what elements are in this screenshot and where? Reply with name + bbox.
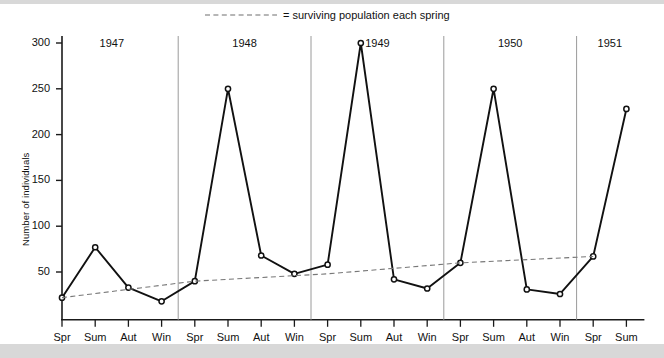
year-label: 1951 [575,37,645,49]
data-point-marker [391,277,396,282]
data-point-marker [524,287,529,292]
data-point-marker [325,262,330,267]
data-point-marker [491,86,496,91]
y-tick-label: 50 [16,265,50,277]
data-point-marker [259,253,264,258]
series-line-population [62,43,626,301]
data-point-marker [159,299,164,304]
y-tick-label: 100 [16,219,50,231]
legend-dashed-line-icon [205,11,277,19]
data-point-marker [557,291,562,296]
chart-plot-area [0,0,664,358]
year-label: 1947 [77,37,147,49]
data-point-marker [624,106,629,111]
legend-label: = surviving population each spring [283,9,450,21]
y-tick-label: 200 [16,128,50,140]
data-point-marker [425,286,430,291]
x-tick-label: Sum [606,331,646,343]
y-tick-label: 300 [16,36,50,48]
year-label: 1949 [342,37,412,49]
y-tick-label: 150 [16,173,50,185]
data-point-marker [93,245,98,250]
data-point-marker [225,86,230,91]
year-label: 1948 [210,37,280,49]
year-label: 1950 [475,37,545,49]
chart-page: Number of individuals 50100150200250300 … [0,0,664,358]
y-tick-label: 250 [16,82,50,94]
